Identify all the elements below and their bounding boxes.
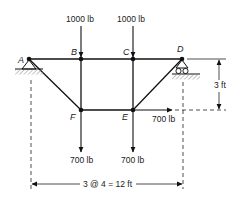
load-label-F: 700 lb: [70, 155, 93, 165]
roller-support-icon: [172, 60, 200, 80]
dim-label-height: 3 ft: [214, 80, 226, 90]
member-AF: [29, 59, 81, 110]
truss-members: [29, 59, 182, 110]
node-label-F: F: [70, 112, 76, 122]
node-label-C: C: [123, 47, 130, 57]
load-label-E-horizontal: 700 lb: [152, 114, 175, 124]
load-label-C: 1000 lb: [117, 14, 145, 24]
node-label-A: A: [17, 55, 24, 65]
node-label-D: D: [177, 44, 184, 54]
node-label-E: E: [122, 112, 129, 122]
member-ED: [133, 59, 182, 110]
joint-B: [79, 57, 84, 62]
load-label-B: 1000 lb: [66, 14, 94, 24]
truss-diagram: A B C D F E 1000 lb 1000 lb 700 lb 700 l…: [0, 0, 242, 201]
load-label-E-vertical: 700 lb: [121, 155, 144, 165]
dim-label-span: 3 @ 4 = 12 ft: [83, 179, 133, 189]
loads: [81, 26, 172, 152]
joint-C: [131, 57, 136, 62]
truss-joints: [27, 57, 185, 113]
node-label-B: B: [71, 47, 77, 57]
